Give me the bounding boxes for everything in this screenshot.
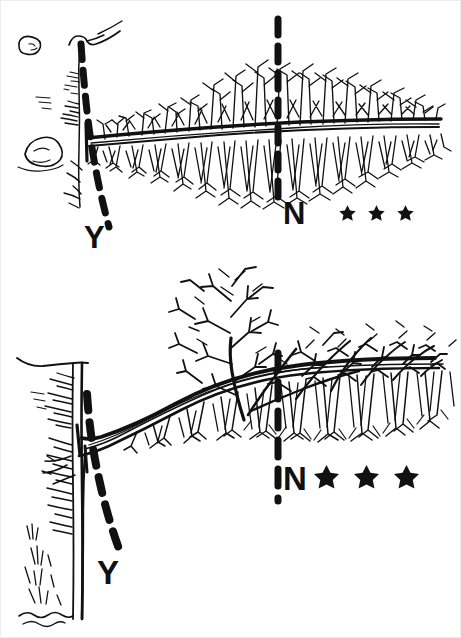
label-y-top: Y: [84, 222, 105, 253]
root-diagram-figure: N Y N Y: [0, 0, 461, 638]
bottom-panel-trunk-and-soil: [17, 358, 88, 627]
bottom-panel-curved-dashed-line: [87, 394, 119, 549]
star-icon: [352, 463, 381, 492]
bottom-panel-artwork: [1, 1, 461, 638]
label-y-bottom: Y: [97, 556, 119, 589]
bottom-panel-fine-roots-lower: [124, 371, 454, 453]
star-icon: [312, 463, 341, 492]
star-icon: [396, 204, 415, 223]
star-icon: [392, 463, 421, 492]
star-icon: [367, 204, 386, 223]
rating-stars-top: [338, 204, 415, 223]
star-icon: [338, 204, 357, 223]
rating-stars-bottom: [312, 463, 421, 492]
label-n-top: N: [283, 198, 305, 229]
label-n-bottom: N: [283, 462, 307, 495]
